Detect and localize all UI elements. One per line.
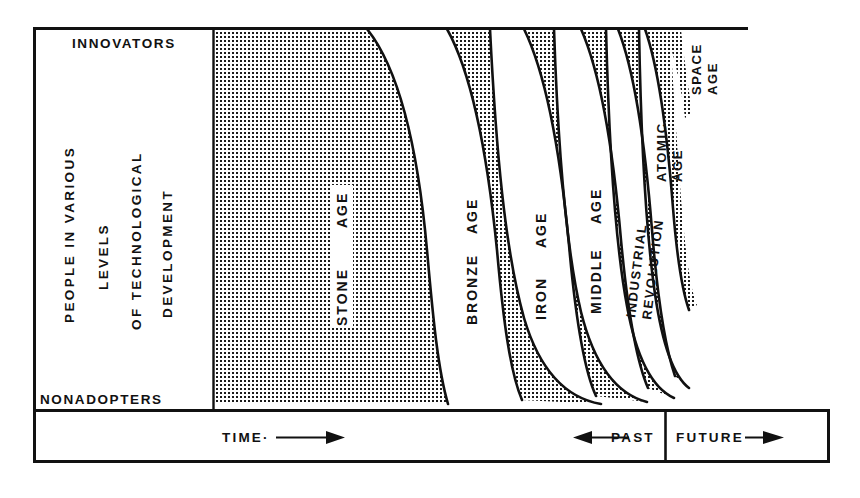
era-label-atomic-age-line-2: AGE [670,149,685,182]
era-label-middle-age-line-2: AGE [588,188,604,224]
axis-label-past: PAST [611,430,655,445]
label-innovators: INNOVATORS [72,36,176,51]
y-axis-caption-line-3: OF TECHNOLOGICAL [129,151,144,330]
diffusion-curve-figure: INNOVATORS NONADOPTERS PEOPLE IN VARIOUS… [0,0,860,498]
y-axis-caption: PEOPLE IN VARIOUS LEVELS OF TECHNOLOGICA… [62,146,175,330]
era-label-bronze-age-line-2: AGE [464,198,480,234]
figure-root: INNOVATORS NONADOPTERS PEOPLE IN VARIOUS… [0,0,860,498]
axis-label-future: FUTURE [676,430,744,445]
y-axis-caption-line-2: LEVELS [96,223,111,290]
era-label-iron-age-line-2: AGE [533,212,549,248]
axis-label-time: TIME· [222,430,270,445]
era-label-iron-age-line-1: IRON [533,277,549,320]
era-label-stone-age-line-2: AGE [334,192,350,228]
era-label-atomic-age-line-1: ATOMIC [654,122,669,182]
y-axis-caption-line-4: DEVELOPMENT [160,189,175,318]
era-label-middle-age-line-1: MIDDLE [588,248,604,314]
era-label-bronze-age-line-1: BRONZE [464,254,480,325]
time-arrow-icon [276,431,345,444]
era-label-stone-age-line-1: STONE [334,268,350,326]
label-nonadopters: NONADOPTERS [40,392,163,407]
y-axis-caption-line-1: PEOPLE IN VARIOUS [62,146,77,323]
era-label-space-age-line-2: AGE [705,62,720,95]
future-arrow-icon [745,431,784,444]
band-stone-age [213,29,448,404]
era-label-space-age-line-1: SPACE [689,43,704,95]
adoption-bands-group [213,29,697,404]
